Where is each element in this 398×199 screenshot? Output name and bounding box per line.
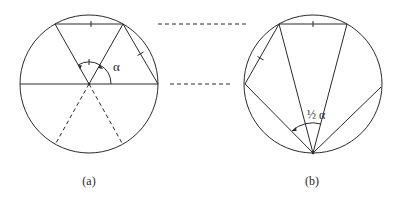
connectors xyxy=(158,24,247,84)
arrowhead-top-arc xyxy=(78,65,82,70)
panel-a xyxy=(20,15,158,153)
dashed-radius-left-a xyxy=(56,84,89,143)
dashed-radius-right-a xyxy=(89,84,122,143)
diagram-figure xyxy=(0,0,398,199)
panel-b xyxy=(244,15,382,154)
angle-label-alpha: α xyxy=(113,59,120,75)
arrowhead-half-alpha xyxy=(292,127,297,131)
line-bottom-to-top-left-b xyxy=(279,24,313,153)
center-point-a xyxy=(88,83,90,85)
panel-label-b: (b) xyxy=(305,174,319,189)
triangle-left-side-a xyxy=(55,24,89,84)
line-bottom-to-left-b xyxy=(245,84,313,153)
bottom-vertex-b xyxy=(312,152,315,155)
triangle-right-side-a xyxy=(89,24,123,84)
circle-b xyxy=(244,15,382,153)
panel-label-a: (a) xyxy=(82,174,95,189)
angle-label-half-alpha: ½ α xyxy=(307,108,325,123)
left-chord-b xyxy=(245,24,279,84)
line-bottom-to-top-right-b xyxy=(313,24,347,153)
